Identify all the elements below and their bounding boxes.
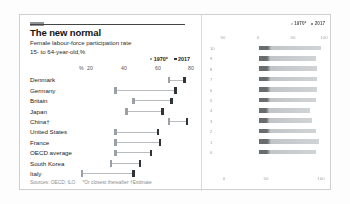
dumbbell-connector	[128, 111, 162, 112]
secondary-x-tick-bottom-3: 100	[317, 176, 324, 181]
x-axis-tick-80: 80	[188, 65, 194, 71]
secondary-bar	[259, 108, 310, 113]
secondary-legend-marker-2017-icon	[311, 23, 313, 25]
dumbbell-connector	[83, 173, 133, 174]
marker-1970	[114, 87, 117, 94]
marker-2017	[174, 87, 177, 94]
secondary-x-tick-top-1: 50	[221, 35, 226, 40]
secondary-bar-row: 10	[202, 43, 333, 53]
country-label: OECD average	[30, 149, 72, 156]
chart-subtitle-2: 15- to 64-year-old,%	[30, 48, 85, 55]
source-label: Sources: OECD; ILO	[30, 180, 75, 185]
marker-1970	[114, 150, 117, 157]
secondary-bar-row: 5	[202, 95, 333, 105]
secondary-bar	[259, 98, 316, 103]
secondary-y-tick: 9	[210, 56, 212, 61]
marker-2017	[183, 77, 186, 84]
x-axis-tick-20: 20	[87, 65, 93, 71]
chart-legend: 1970* 2017	[150, 56, 190, 62]
legend-marker-1970-icon	[150, 58, 153, 61]
dumbbell-chart-panel: The new normal Female labour-force parti…	[20, 15, 200, 191]
secondary-legend-item-1970: 1970*	[291, 21, 307, 26]
secondary-bar	[259, 129, 316, 134]
secondary-bar	[259, 118, 312, 123]
secondary-bar-row: 9	[202, 53, 333, 63]
secondary-y-tick: 6	[210, 88, 212, 93]
secondary-bar	[259, 77, 317, 82]
secondary-x-axis-top: 50 0 50 100	[202, 35, 333, 42]
marker-1970	[81, 170, 84, 177]
header-divider	[30, 24, 185, 25]
x-axis-tick-40: 40	[121, 65, 127, 71]
secondary-y-tick: 10	[210, 46, 215, 51]
dumbbell-row: Britain	[20, 96, 200, 106]
screenshot-root: The new normal Female labour-force parti…	[0, 0, 350, 204]
secondary-chart-legend: 1970* 2017	[291, 21, 325, 26]
secondary-y-tick: 5	[210, 98, 212, 103]
country-label: Denmark	[30, 76, 55, 83]
country-label: United States	[30, 128, 67, 135]
country-label: Japan	[30, 108, 47, 115]
legend-label-2017: 2017	[178, 56, 190, 62]
secondary-x-tick-bottom-2: 50	[264, 176, 269, 181]
marker-1970	[168, 118, 171, 125]
marker-1970	[132, 98, 135, 105]
country-label: South Korea	[30, 160, 64, 167]
secondary-x-tick-bottom-1: 0	[223, 176, 225, 181]
secondary-bar-row: 7	[202, 74, 333, 84]
secondary-x-tick-top-2: 0	[257, 35, 259, 40]
marker-2017	[139, 160, 142, 167]
dumbbell-row: South Korea	[20, 158, 200, 168]
dumbbell-row: United States	[20, 127, 200, 137]
dumbbell-row: France	[20, 137, 200, 147]
country-label: China†	[30, 118, 50, 125]
secondary-legend-label-1970: 1970*	[294, 21, 306, 26]
secondary-plot-area: 109876543210	[202, 43, 333, 161]
marker-1970	[114, 139, 117, 146]
secondary-y-tick: 0	[210, 150, 212, 155]
marker-2017	[170, 98, 173, 105]
secondary-bar	[259, 150, 316, 155]
dumbbell-connector	[117, 90, 176, 91]
secondary-x-tick-top-3: 50	[291, 35, 296, 40]
chart-title: The new normal	[30, 27, 101, 38]
secondary-legend-item-2017: 2017	[311, 21, 325, 26]
legend-item-1970: 1970*	[150, 56, 168, 62]
secondary-bar	[259, 56, 316, 61]
dumbbell-row: Germany	[20, 85, 200, 95]
chart-card: The new normal Female labour-force parti…	[19, 14, 331, 190]
dumbbell-connector	[135, 100, 172, 101]
marker-2017	[150, 150, 153, 157]
dumbbell-row: OECD average	[20, 148, 200, 158]
dumbbell-row: Italy	[20, 169, 200, 179]
marker-1970	[114, 129, 117, 136]
marker-2017	[157, 129, 160, 136]
secondary-y-tick: 2	[210, 129, 212, 134]
marker-2017	[186, 118, 189, 125]
marker-1970	[110, 160, 113, 167]
legend-item-2017: 2017	[174, 56, 190, 62]
secondary-y-tick: 1	[210, 140, 212, 145]
marker-1970	[168, 77, 171, 84]
marker-2017	[161, 108, 164, 115]
chart-notes: *Or closest thereafter †Estimate	[82, 180, 151, 185]
dumbbell-plot-area: DenmarkGermanyBritainJapanChina†United S…	[20, 75, 200, 179]
secondary-bar-row: 8	[202, 64, 333, 74]
secondary-bar-row: 0	[202, 147, 333, 157]
dumbbell-row: Japan	[20, 106, 200, 116]
secondary-x-axis-bottom: 0 50 100	[202, 176, 333, 183]
country-label: Italy	[30, 170, 41, 177]
dumbbell-row: Denmark	[20, 75, 200, 85]
dumbbell-connector	[170, 121, 187, 122]
x-axis: % 20 40 60 80	[20, 65, 200, 73]
x-axis-tick-60: 60	[155, 65, 161, 71]
secondary-bar-row: 3	[202, 116, 333, 126]
secondary-bar	[259, 139, 319, 144]
secondary-y-tick: 4	[210, 108, 212, 113]
legend-marker-2017-icon	[174, 58, 177, 61]
secondary-legend-marker-1970-icon	[291, 23, 293, 25]
secondary-bar	[259, 46, 321, 51]
secondary-bar-row: 4	[202, 105, 333, 115]
dumbbell-row: China†	[20, 117, 200, 127]
secondary-bar-row: 6	[202, 85, 333, 95]
